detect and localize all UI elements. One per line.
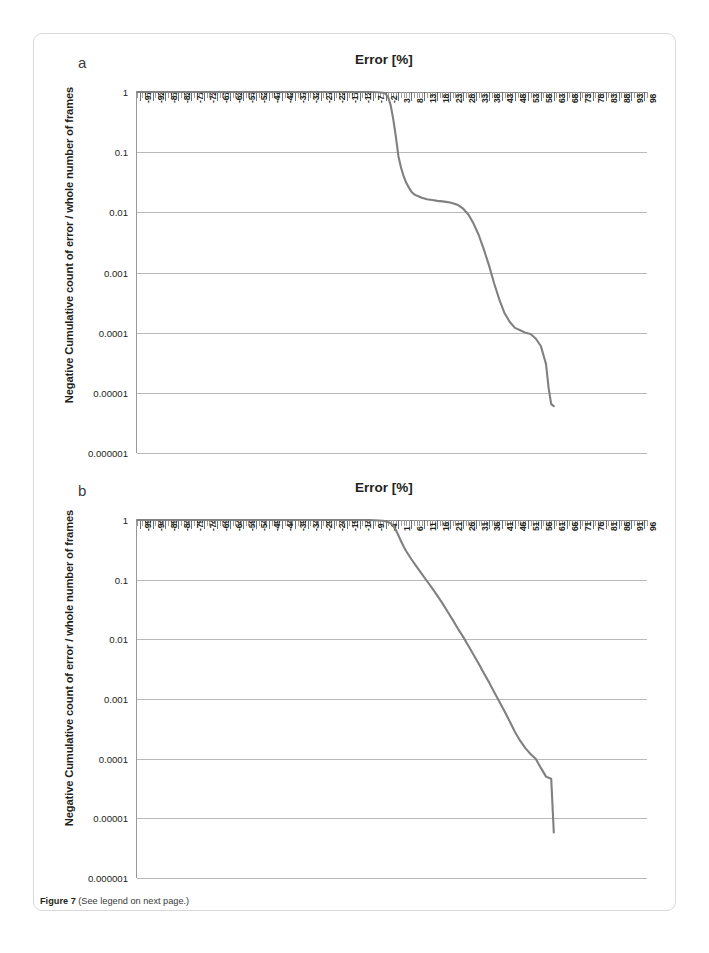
x-tick-label: 98 <box>648 94 658 103</box>
chart-panel-b: b Negative Cumulative count of error / w… <box>34 462 677 882</box>
y-tick-label: 0.0001 <box>38 753 128 764</box>
y-tick-label: 0.001 <box>38 267 128 278</box>
y-tick-label: 0.000001 <box>38 448 128 459</box>
y-tick-label: 0.00001 <box>38 387 128 398</box>
y-tick-label: 0.1 <box>38 147 128 158</box>
y-tick-label: 0.0001 <box>38 327 128 338</box>
chart-title-a: Error [%] <box>124 52 644 67</box>
chart-panel-a: a Negative Cumulative count of error / w… <box>34 34 677 464</box>
y-tick-label: 0.01 <box>38 207 128 218</box>
series-layer <box>137 92 647 453</box>
series-layer <box>137 520 647 878</box>
gridline-y <box>137 878 647 879</box>
figure-caption-label: Figure 7 <box>40 896 76 906</box>
x-tick-label: 96 <box>648 522 658 531</box>
data-series-line <box>137 92 554 406</box>
y-axis-title-b: Negative Cumulative count of error / who… <box>63 503 75 833</box>
data-series-line <box>137 520 554 832</box>
y-tick-label: 0.001 <box>38 694 128 705</box>
gridline-y <box>137 453 647 454</box>
plot-area-a: 10.10.010.0010.00010.000010.000001-97-92… <box>136 92 646 453</box>
y-tick-label: 0.1 <box>38 574 128 585</box>
plot-area-b: 10.10.010.0010.00010.000010.000001-99-94… <box>136 520 646 878</box>
figure-caption: Figure 7 (See legend on next page.) <box>40 896 189 906</box>
y-tick-label: 1 <box>38 515 128 526</box>
chart-title-b: Error [%] <box>124 480 644 495</box>
figure-frame: a Negative Cumulative count of error / w… <box>33 33 676 911</box>
y-tick-label: 0.000001 <box>38 873 128 884</box>
y-tick-label: 0.01 <box>38 634 128 645</box>
panel-letter-b: b <box>78 482 86 499</box>
y-tick-label: 1 <box>38 87 128 98</box>
panel-letter-a: a <box>78 54 86 71</box>
y-axis-title-a: Negative Cumulative count of error / who… <box>63 80 75 410</box>
y-tick-label: 0.00001 <box>38 813 128 824</box>
figure-caption-text: (See legend on next page.) <box>78 896 189 906</box>
